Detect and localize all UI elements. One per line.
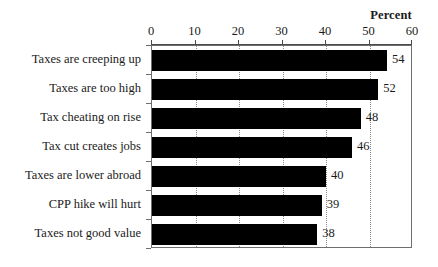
bar-value-label: 52	[383, 74, 396, 103]
y-axis-category-labels: Taxes are creeping upTaxes are too highT…	[0, 45, 145, 248]
x-tick-label-60: 60	[392, 24, 432, 39]
y-tick-mark	[146, 161, 151, 162]
y-tick-mark	[146, 103, 151, 104]
y-category-label: Taxes are creeping up	[0, 45, 145, 74]
bar-value-label: 46	[357, 132, 370, 161]
y-tick-mark	[146, 74, 151, 75]
bar-value-label: 39	[327, 190, 340, 219]
y-category-label: Tax cut creates jobs	[0, 132, 145, 161]
y-tick-mark	[146, 45, 151, 46]
x-tick-label-50: 50	[349, 24, 389, 39]
bar-value-label: 54	[392, 45, 405, 74]
x-tick-label-20: 20	[218, 24, 258, 39]
y-tick-mark	[146, 132, 151, 133]
y-tick-mark	[146, 248, 151, 249]
y-tick-mark	[146, 190, 151, 191]
x-tick-label-10: 10	[175, 24, 215, 39]
x-axis-title: Percent	[352, 8, 430, 23]
bar-value-label: 40	[331, 161, 344, 190]
y-category-label: Tax cheating on rise	[0, 103, 145, 132]
x-axis-tick-labels: 0102030405060	[151, 24, 412, 39]
x-tick-label-40: 40	[305, 24, 345, 39]
bar-value-label: 38	[322, 219, 335, 248]
y-category-label: Taxes are too high	[0, 74, 145, 103]
bar-chart-figure: Percent 0102030405060 Taxes are creeping…	[0, 0, 438, 267]
y-category-label: Taxes are lower abroad	[0, 161, 145, 190]
y-category-label: CPP hike will hurt	[0, 190, 145, 219]
bar-value-label: 48	[366, 103, 379, 132]
bar-value-labels: 54524846403938	[151, 45, 412, 248]
x-tick-label-30: 30	[262, 24, 302, 39]
x-tick-label-0: 0	[131, 24, 171, 39]
y-tick-mark	[146, 219, 151, 220]
y-category-label: Taxes not good value	[0, 219, 145, 248]
